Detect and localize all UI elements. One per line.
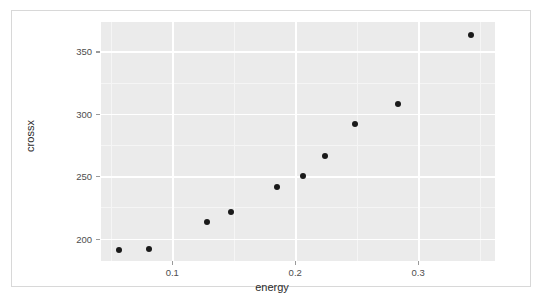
gridline-minor-horizontal bbox=[101, 83, 495, 84]
gridline-minor-horizontal bbox=[101, 207, 495, 208]
y-axis-tick-label: 250 bbox=[52, 171, 92, 182]
data-point bbox=[468, 32, 474, 38]
gridline-major-horizontal bbox=[101, 114, 495, 116]
gridline-major-horizontal bbox=[101, 176, 495, 178]
scatter-plot: 2002503003500.10.20.3 crossx energy bbox=[12, 11, 530, 286]
gridline-minor-vertical bbox=[234, 22, 235, 261]
data-point bbox=[322, 153, 328, 159]
gridline-minor-vertical bbox=[357, 22, 358, 261]
data-point bbox=[395, 101, 401, 107]
y-axis-tick-mark bbox=[96, 176, 100, 177]
gridline-minor-vertical bbox=[111, 22, 112, 261]
x-axis-title: energy bbox=[12, 281, 532, 293]
gridline-minor-horizontal bbox=[101, 145, 495, 146]
x-axis-tick-mark bbox=[295, 261, 296, 265]
x-axis-tick-label: 0.2 bbox=[275, 267, 315, 278]
x-axis-tick-label: 0.1 bbox=[152, 267, 192, 278]
figure-frame: 2002503003500.10.20.3 crossx energy bbox=[11, 10, 531, 287]
data-point bbox=[146, 246, 152, 252]
y-axis-tick-mark bbox=[96, 114, 100, 115]
x-axis-tick-mark bbox=[418, 261, 419, 265]
plot-panel bbox=[101, 22, 495, 261]
y-axis-tick-label: 350 bbox=[52, 46, 92, 57]
gridline-major-horizontal bbox=[101, 51, 495, 53]
gridline-major-vertical bbox=[418, 22, 420, 261]
y-axis-tick-label: 300 bbox=[52, 108, 92, 119]
data-point bbox=[274, 184, 280, 190]
y-axis-tick-mark bbox=[96, 239, 100, 240]
y-axis-title: crossx bbox=[24, 66, 36, 206]
x-axis-tick-label: 0.3 bbox=[398, 267, 438, 278]
data-point bbox=[116, 247, 122, 253]
y-axis-tick-mark bbox=[96, 51, 100, 52]
gridline-major-vertical bbox=[172, 22, 174, 261]
gridline-minor-vertical bbox=[480, 22, 481, 261]
data-point bbox=[204, 219, 210, 225]
gridline-major-horizontal bbox=[101, 239, 495, 241]
data-point bbox=[300, 173, 306, 179]
x-axis-tick-mark bbox=[172, 261, 173, 265]
y-axis-tick-label: 200 bbox=[52, 233, 92, 244]
gridline-major-vertical bbox=[295, 22, 297, 261]
